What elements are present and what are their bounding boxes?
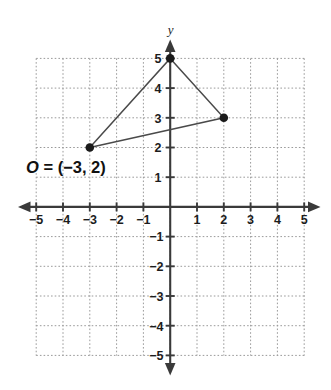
y-tick-label: −4 (149, 320, 163, 334)
y-tick-label: −1 (149, 230, 163, 244)
triangle-outline (90, 58, 224, 147)
x-tick-label: 2 (220, 213, 227, 227)
triangle-shape (86, 54, 229, 152)
y-tick-label: −2 (149, 260, 163, 274)
x-tick-label: −1 (136, 213, 150, 227)
x-tick-label: 1 (194, 213, 201, 227)
x-tick-label: −3 (83, 213, 97, 227)
y-axis-label: y (166, 22, 174, 37)
x-axis-right-arrow-icon (308, 202, 321, 213)
point-label-coords: = (−3, 2) (39, 158, 106, 176)
y-tick-label: 4 (155, 82, 162, 96)
x-axis-left-arrow-icon (18, 202, 31, 213)
x-tick-label: 4 (274, 213, 281, 227)
x-tick-label: −2 (109, 213, 123, 227)
x-tick-label: −4 (56, 213, 70, 227)
y-axis-down-arrow-icon (165, 363, 176, 376)
y-tick-label: 2 (155, 141, 162, 155)
y-tick-label: 3 (155, 112, 162, 126)
y-axis-up-arrow-icon (165, 40, 176, 53)
x-tick-label: −5 (29, 213, 43, 227)
vertex-point-o (86, 143, 95, 152)
point-label-o: O = (−3, 2) (26, 158, 106, 176)
y-tick-label: 1 (155, 171, 162, 185)
vertex-point-top (166, 54, 175, 63)
y-tick-label: −3 (149, 290, 163, 304)
coordinate-plane-figure: −5 −4 −3 −2 −1 1 2 3 4 5 5 4 3 2 1 −1 −2… (0, 0, 331, 390)
x-tick-label: 3 (247, 213, 254, 227)
vertex-point-right (220, 114, 229, 123)
x-tick-label: 5 (301, 213, 308, 227)
y-tick-label: −5 (149, 349, 163, 363)
x-axis-tick-labels: −5 −4 −3 −2 −1 1 2 3 4 5 (29, 213, 308, 227)
point-label-letter: O (26, 158, 39, 176)
coordinate-plane-svg: −5 −4 −3 −2 −1 1 2 3 4 5 5 4 3 2 1 −1 −2… (0, 0, 331, 390)
y-tick-label: 5 (155, 52, 162, 66)
